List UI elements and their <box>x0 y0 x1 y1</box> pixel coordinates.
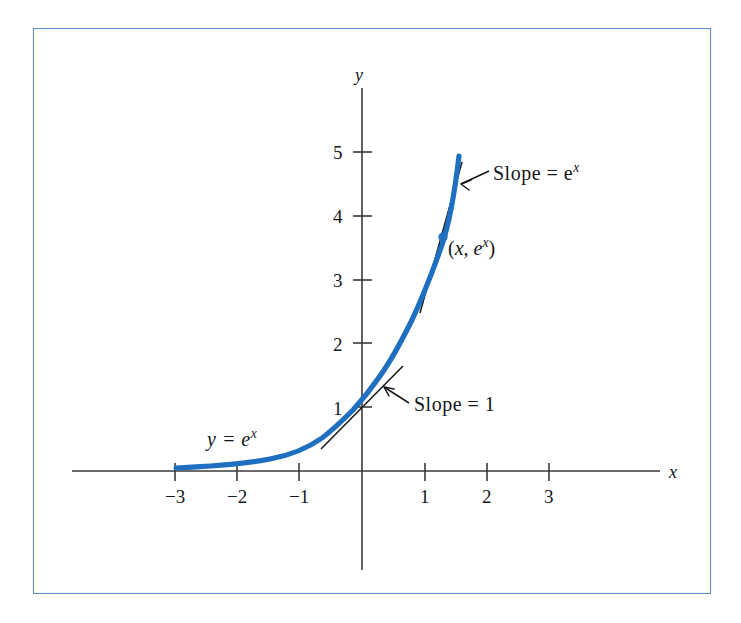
x-tick-label-1: 1 <box>420 487 430 506</box>
point-label-open: ( <box>448 237 455 259</box>
x-tick-label--1: −1 <box>289 487 309 506</box>
y-tick-label-1: 1 <box>333 399 343 418</box>
y-axis-label: y <box>355 66 363 84</box>
point-label-x: x <box>455 237 464 259</box>
x-tick-label--2: −2 <box>227 487 247 506</box>
slope-1-arrow <box>384 387 409 403</box>
y-tick-label-5: 5 <box>333 143 343 162</box>
slope-1-label: Slope = 1 <box>414 394 495 414</box>
exponential-curve <box>176 156 459 468</box>
slope-ex-label: Slope = ex <box>493 163 580 183</box>
x-tick-label-3: 3 <box>544 487 554 506</box>
graph-canvas <box>0 0 741 623</box>
x-axis-label: x <box>669 463 677 481</box>
tangency-point-dot <box>438 232 447 241</box>
y-tick-label-4: 4 <box>333 207 343 226</box>
figure-container: −3 −2 −1 1 2 3 1 2 3 4 5 x y y = ex Slop… <box>0 0 741 623</box>
slope-ex-arrow <box>461 171 489 190</box>
point-label-comma: , <box>464 237 474 259</box>
slope-ex-text: Slope = e <box>493 162 573 184</box>
point-label: (x, ex) <box>448 238 495 258</box>
slope-ex-exponent: x <box>573 160 580 175</box>
x-tick-label-2: 2 <box>482 487 492 506</box>
y-tick-label-2: 2 <box>333 335 343 354</box>
curve-label-exponent: x <box>251 426 258 441</box>
curve-label-text: y = e <box>207 428 251 450</box>
x-tick-label--3: −3 <box>165 487 185 506</box>
point-label-close: ) <box>489 237 496 259</box>
y-tick-label-3: 3 <box>333 271 343 290</box>
curve-label: y = ex <box>207 429 257 449</box>
